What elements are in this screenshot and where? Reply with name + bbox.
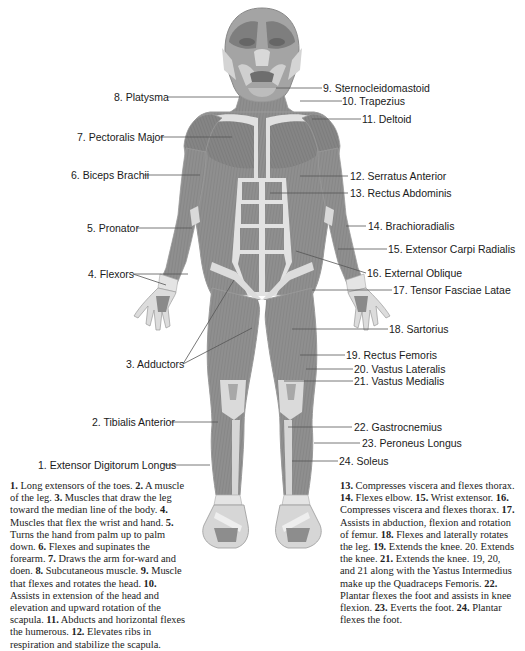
leg-right	[264, 288, 321, 548]
desc-num: 13.	[340, 480, 353, 491]
desc-num: 15.	[415, 492, 428, 503]
desc-num: 6.	[38, 541, 46, 552]
desc-num: 4.	[160, 504, 168, 515]
label-trapezius: 10. Trapezius	[342, 95, 405, 107]
desc-num: 7.	[48, 553, 56, 564]
desc-num: 2.	[135, 480, 143, 491]
label-rectus-femoris: 19. Rectus Femoris	[346, 349, 437, 361]
label-platysma: 8. Platysma	[114, 91, 169, 103]
label-rectus-abdominis: 13. Rectus Abdominis	[350, 187, 452, 199]
label-tibialis-anterior: 2. Tibialis Anterior	[92, 416, 175, 428]
label-pronator: 5. Pronator	[87, 222, 139, 234]
label-sartorius: 18. Sartorius	[389, 323, 449, 335]
label-biceps-brachii: 6. Biceps Brachii	[71, 169, 149, 181]
desc-num: 23.	[375, 602, 388, 613]
desc-text: Compresses viscera and flexes thorax.	[340, 504, 502, 515]
label-soleus: 24. Soleus	[339, 455, 389, 467]
desc-num: 22.	[484, 578, 497, 589]
label-adductors: 3. Adductors	[126, 358, 184, 370]
desc-text: Wrist extensor.	[428, 492, 496, 503]
desc-text: Flexes elbow.	[353, 492, 415, 503]
leg-left	[203, 288, 260, 548]
desc-num: 17.	[502, 504, 515, 515]
desc-num: 10.	[144, 578, 157, 589]
label-serratus-anterior: 12. Serratus Anterior	[350, 170, 446, 182]
label-tensor-fasciae-latae: 17. Tensor Fasciae Latae	[393, 284, 511, 296]
label-pectoralis-major: 7. Pectoralis Major	[77, 131, 164, 143]
label-brachioradialis: 14. Brachioradialis	[368, 220, 454, 232]
desc-num: 12.	[71, 626, 84, 637]
label-external-oblique: 16. External Oblique	[367, 267, 462, 279]
desc-text: Muscles that flex the wrist and hand.	[10, 517, 166, 528]
label-gastrocnemius: 22. Gastrocnemius	[354, 421, 442, 433]
desc-num: 19.	[373, 541, 386, 552]
desc-num: 16.	[496, 492, 509, 503]
desc-text: Long extensors of the toes.	[18, 480, 135, 491]
label-extensor-digitorum-longus: 1. Extensor Digitorum Longus	[38, 459, 176, 471]
label-peroneus-longus: 23. Peroneus Longus	[362, 437, 462, 449]
description-left: 1. Long extensors of the toes. 2. A musc…	[10, 480, 188, 651]
label-vastus-medialis: 21. Vastus Medialis	[354, 375, 444, 387]
desc-num: 24.	[457, 602, 470, 613]
label-flexors: 4. Flexors	[88, 268, 134, 280]
desc-num: 1.	[10, 480, 18, 491]
desc-num: 11.	[46, 614, 58, 625]
desc-text: Subcutaneous muscle.	[43, 565, 141, 576]
description-right: 13. Compresses viscera and flexes thorax…	[340, 480, 518, 626]
desc-text: Everts the foot.	[388, 602, 457, 613]
label-sternocleidomastoid: 9. Sternocleidomastoid	[323, 82, 430, 94]
torso	[188, 112, 336, 306]
desc-num: 21.	[380, 553, 393, 564]
desc-text: Compresses viscera and flexes thorax.	[353, 480, 515, 491]
desc-num: 9.	[141, 565, 149, 576]
label-deltoid: 11. Deltoid	[362, 113, 411, 125]
label-vastus-lateralis: 20. Vastus Lateralis	[354, 363, 445, 375]
label-extensor-carpi-radialis: 15. Extensor Carpi Radialis	[388, 243, 515, 255]
head	[222, 8, 302, 108]
desc-num: 5.	[166, 517, 174, 528]
desc-num: 18.	[381, 529, 394, 540]
desc-num: 14.	[340, 492, 353, 503]
